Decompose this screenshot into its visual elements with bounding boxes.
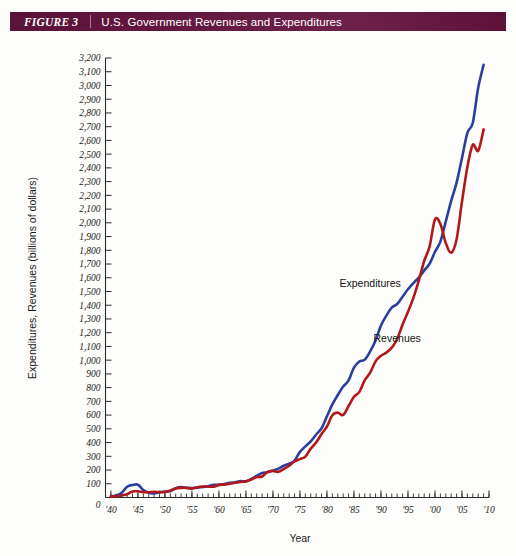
y-tick-label: 1,200 bbox=[79, 328, 101, 338]
y-tick-label: 1,100 bbox=[79, 342, 101, 352]
y-tick-label: 1,700 bbox=[79, 259, 101, 269]
x-tick-label: '60 bbox=[213, 505, 225, 515]
x-tick-label: '65 bbox=[240, 505, 252, 515]
y-axis-title: Expenditures, Revenues (billions of doll… bbox=[26, 177, 38, 379]
y-tick-label: 2,200 bbox=[79, 191, 101, 201]
y-tick-label: 3,100 bbox=[78, 67, 101, 77]
y-tick-label: 2,500 bbox=[79, 150, 101, 160]
y-tick-label: 1,000 bbox=[79, 356, 101, 366]
x-axis: '40'45'50'55'60'65'70'75'80'85'90'95'00'… bbox=[105, 491, 495, 545]
x-tick-label: '75 bbox=[294, 505, 306, 515]
x-tick-label: '50 bbox=[159, 505, 171, 515]
y-tick-label: 2,600 bbox=[79, 136, 101, 146]
series-line-revenues bbox=[111, 129, 484, 496]
y-tick-label: 2,700 bbox=[79, 122, 101, 132]
y-tick-label: 2,800 bbox=[79, 108, 101, 118]
figure-title-text: U.S. Government Revenues and Expenditure… bbox=[101, 16, 342, 28]
y-axis: 01002003004005006007008009001,0001,1001,… bbox=[26, 53, 112, 509]
figure-title-band: FIGURE 3 U.S. Government Revenues and Ex… bbox=[10, 12, 506, 31]
y-axis-ticks bbox=[106, 58, 112, 498]
y-tick-label: 900 bbox=[86, 369, 101, 379]
y-tick-label: 3,000 bbox=[78, 81, 101, 91]
x-tick-label: '55 bbox=[186, 505, 198, 515]
y-tick-label: 2,300 bbox=[79, 177, 101, 187]
y-tick-label: 500 bbox=[86, 424, 101, 434]
x-tick-label: '95 bbox=[402, 505, 414, 515]
y-tick-label: 400 bbox=[86, 438, 101, 448]
y-tick-label: 300 bbox=[85, 452, 101, 462]
x-axis-minor-ticks bbox=[106, 494, 490, 498]
x-tick-label: '00 bbox=[429, 505, 441, 515]
x-tick-label: '85 bbox=[348, 505, 360, 515]
x-tick-label: '40 bbox=[105, 505, 117, 515]
y-tick-label: 2,000 bbox=[79, 218, 101, 228]
y-tick-label: 2,900 bbox=[79, 95, 101, 105]
x-tick-label: '80 bbox=[321, 505, 333, 515]
figure-number-label: FIGURE 3 bbox=[10, 16, 78, 28]
y-tick-label: 1,900 bbox=[79, 232, 101, 242]
y-tick-label: 1,500 bbox=[79, 287, 101, 297]
data-series-group bbox=[111, 65, 484, 497]
x-axis-title: Year bbox=[289, 532, 311, 544]
x-tick-label: '10 bbox=[483, 505, 495, 515]
annotation-revenues: Revenues bbox=[374, 332, 421, 344]
x-tick-label: '45 bbox=[132, 505, 144, 515]
annotation-expenditures: Expenditures bbox=[340, 277, 401, 289]
y-tick-label: 1,800 bbox=[79, 246, 101, 256]
y-tick-label: 1,300 bbox=[79, 314, 101, 324]
y-axis-tick-labels: 01002003004005006007008009001,0001,1001,… bbox=[78, 53, 101, 509]
line-chart: 01002003004005006007008009001,0001,1001,… bbox=[0, 30, 516, 556]
y-tick-label: 1,400 bbox=[79, 301, 101, 311]
y-tick-label: 200 bbox=[86, 465, 101, 475]
y-tick-label: 700 bbox=[86, 397, 101, 407]
title-divider bbox=[90, 15, 91, 28]
y-tick-label: 2,400 bbox=[79, 163, 101, 173]
x-axis-tick-labels: '40'45'50'55'60'65'70'75'80'85'90'95'00'… bbox=[105, 505, 495, 515]
y-tick-label: 800 bbox=[86, 383, 101, 393]
y-tick-label: 100 bbox=[86, 479, 101, 489]
x-tick-label: '05 bbox=[456, 505, 468, 515]
y-tick-label: 0 bbox=[96, 500, 101, 510]
series-line-expenditures bbox=[111, 65, 484, 496]
y-tick-label: 1,600 bbox=[79, 273, 101, 283]
x-tick-label: '70 bbox=[267, 505, 279, 515]
x-tick-label: '90 bbox=[375, 505, 387, 515]
figure-container: FIGURE 3 U.S. Government Revenues and Ex… bbox=[0, 0, 516, 556]
y-tick-label: 2,100 bbox=[79, 204, 101, 214]
y-tick-label: 3,200 bbox=[78, 53, 101, 63]
y-tick-label: 600 bbox=[86, 410, 101, 420]
